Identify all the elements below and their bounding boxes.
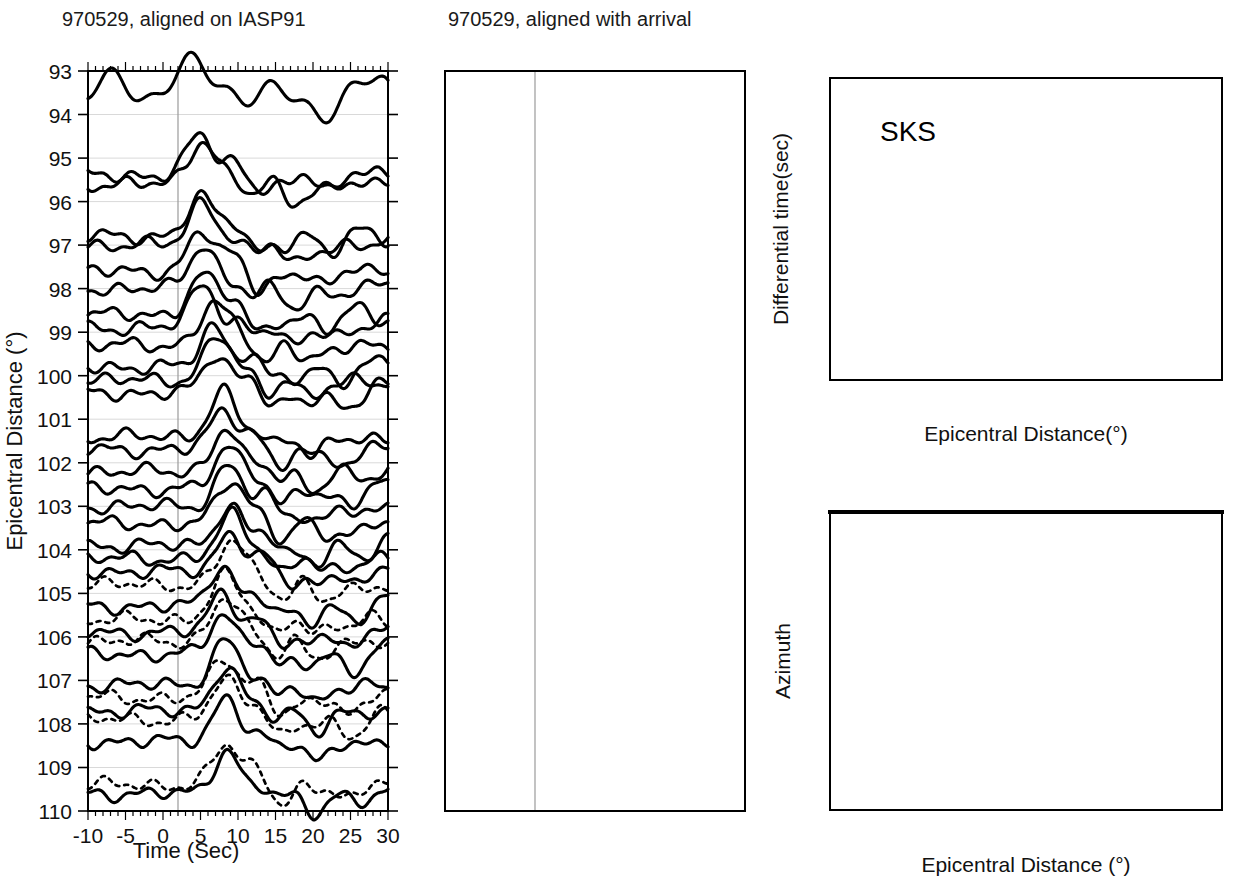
x-tick-label: 20	[301, 824, 324, 847]
y-tick-label: 102	[37, 452, 72, 475]
x-tick-label: 15	[264, 824, 287, 847]
y-tick-label: 110	[39, 800, 72, 823]
x-tick-label: -10	[73, 824, 103, 847]
y-tick-label: 97	[49, 234, 72, 257]
figure-canvas: 970529, aligned on IASP91 970529, aligne…	[0, 0, 1260, 894]
sks-y-axis-label: Differential time(sec)	[769, 133, 792, 325]
left-panel-title: 970529, aligned on IASP91	[62, 8, 306, 30]
x-tick-label: 30	[376, 824, 399, 847]
y-tick-label: 96	[49, 191, 72, 214]
left-y-axis-label: Epicentral Distance (°)	[2, 331, 27, 550]
y-tick-label: 109	[37, 756, 72, 779]
y-tick-label: 93	[49, 60, 72, 83]
y-tick-label: 95	[49, 147, 72, 170]
y-tick-label: 107	[37, 669, 72, 692]
y-tick-label: 105	[37, 582, 72, 605]
y-tick-label: 100	[37, 365, 72, 388]
azimuth-y-axis-label: Azimuth	[771, 623, 794, 699]
canvas-background	[0, 0, 1260, 894]
azimuth-x-axis-label: Epicentral Distance (°)	[921, 853, 1130, 876]
figure-root: 970529, aligned on IASP91 970529, aligne…	[0, 0, 1260, 894]
y-tick-label: 94	[49, 104, 73, 127]
sks-x-axis-label: Epicentral Distance(°)	[924, 422, 1127, 445]
y-tick-label: 104	[37, 539, 72, 562]
y-tick-label: 101	[37, 408, 72, 431]
y-tick-label: 106	[37, 626, 72, 649]
y-tick-label: 98	[49, 278, 72, 301]
middle-panel-title: 970529, aligned with arrival	[448, 8, 692, 30]
left-x-axis-label: Time (Sec)	[133, 838, 240, 863]
sks-annotation-label: SKS	[880, 116, 936, 147]
y-tick-label: 108	[37, 713, 72, 736]
y-tick-label: 103	[37, 495, 72, 518]
x-tick-label: 25	[339, 824, 362, 847]
y-tick-label: 99	[49, 321, 72, 344]
